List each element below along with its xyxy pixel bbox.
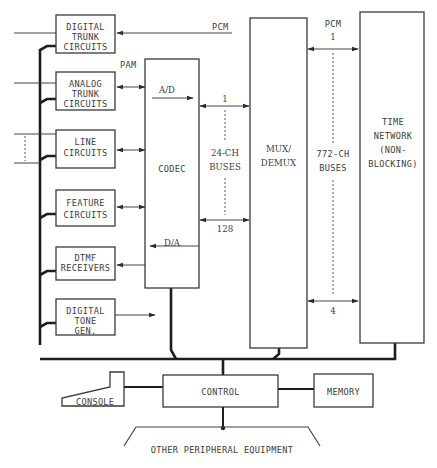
bus772-bottom-label: 4 — [330, 306, 336, 316]
bus772-pcm-label: PCM — [325, 19, 341, 29]
block-digital-trunk-circuits: DIGITAL TRUNK CIRCUITS — [56, 15, 115, 53]
block-label: CIRCUITS — [64, 210, 108, 220]
bus24-bottom-label: 128 — [217, 224, 233, 234]
time-network-label: NETWORK — [374, 131, 413, 141]
time-network-label: BLOCKING) — [368, 159, 417, 169]
pcm-label: PCM — [212, 22, 228, 32]
block-label: CIRCUITS — [64, 42, 108, 52]
block-label: CIRCUITS — [64, 148, 108, 158]
mux-line2: DEMUX — [261, 158, 297, 168]
block-analog-trunk-circuits: ANALOG TRUNK CIRCUITS — [56, 72, 115, 110]
block-label: DTMF — [75, 253, 97, 263]
bus-772-channel: PCM 1 772-CH BUSES 4 — [308, 19, 358, 316]
switching-system-block-diagram: DIGITAL TRUNK CIRCUITS ANALOG TRUNK CIRC… — [0, 0, 437, 468]
bus24-line2: BUSES — [209, 162, 241, 172]
bus772-line2: BUSES — [319, 163, 346, 173]
time-network-label: (NON- — [379, 145, 406, 155]
console-label: CONSOLE — [76, 397, 114, 407]
bus24-line1: 24-CH — [211, 148, 239, 158]
block-digital-tone-gen: DIGITAL TONE GEN. — [56, 299, 115, 336]
codec-label: CODEC — [158, 164, 185, 174]
block-label: GEN. — [75, 326, 97, 336]
pam-label: PAM — [120, 60, 136, 70]
control-section: CONSOLE CONTROL MEMORY — [62, 372, 373, 430]
block-label: TRUNK — [72, 32, 100, 42]
block-label: TRUNK — [72, 89, 100, 99]
block-line-circuits: LINE CIRCUITS — [56, 130, 115, 168]
block-label: FEATURE — [66, 198, 104, 208]
ad-label: A/D — [158, 85, 175, 95]
block-feature-circuits: FEATURE CIRCUITS — [56, 190, 115, 226]
block-dtmf-receivers: DTMF RECEIVERS — [56, 247, 115, 280]
block-label: CIRCUITS — [64, 99, 108, 109]
bus-24-channel: 1 24-CH BUSES 128 — [200, 94, 249, 234]
bus772-line1: 772-CH — [317, 149, 350, 159]
block-label: DIGITAL — [66, 306, 104, 316]
block-codec: CODEC A/D D/A — [145, 59, 199, 288]
bus772-top-label: 1 — [330, 32, 335, 42]
block-label: DIGITAL — [66, 22, 104, 32]
block-time-network: TIME NETWORK (NON- BLOCKING) — [360, 12, 424, 343]
mux-line1: MUX/ — [266, 144, 291, 154]
block-label: TONE — [75, 316, 97, 326]
bus24-top-label: 1 — [222, 94, 227, 104]
memory-label: MEMORY — [327, 387, 360, 397]
other-peripheral-equipment: OTHER PERIPHERAL EQUIPMENT — [124, 427, 320, 455]
block-label: LINE — [75, 137, 97, 147]
block-label: ANALOG — [69, 79, 102, 89]
block-label: RECEIVERS — [61, 263, 110, 273]
control-label: CONTROL — [201, 387, 239, 397]
time-network-label: TIME — [382, 117, 404, 127]
block-mux-demux: MUX/ DEMUX — [250, 18, 307, 348]
peripheral-label: OTHER PERIPHERAL EQUIPMENT — [151, 445, 293, 455]
